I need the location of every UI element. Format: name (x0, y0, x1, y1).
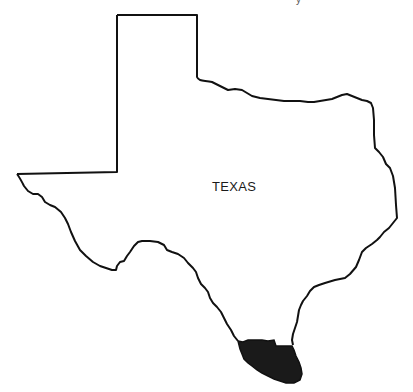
texas-outline (17, 15, 397, 345)
texas-map (0, 0, 413, 392)
highlighted-county-region (238, 340, 302, 383)
state-label-texas: TEXAS (212, 179, 256, 194)
